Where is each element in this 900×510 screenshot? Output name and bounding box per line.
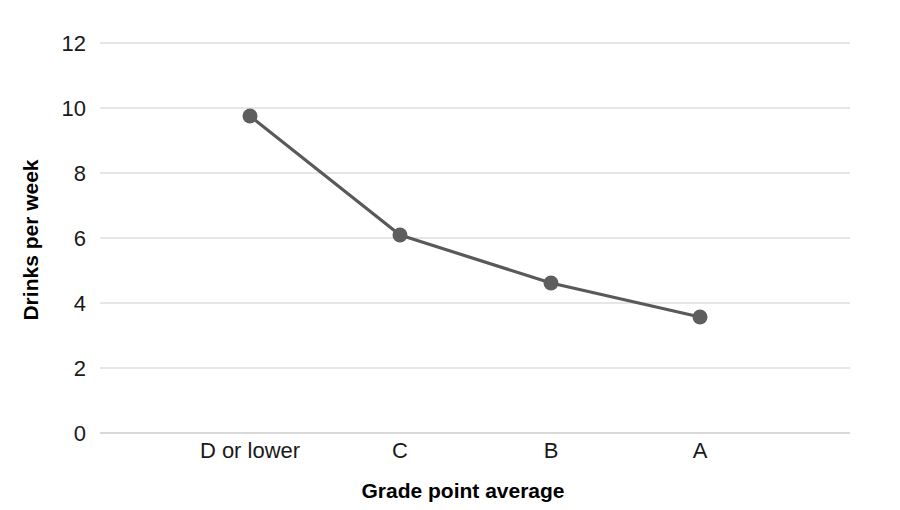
plot-area-background — [100, 30, 850, 433]
line-chart: 12 10 8 6 4 2 0 D or lower C B A Grade p… — [0, 0, 900, 510]
y-tick-labels: 12 10 8 6 4 2 0 — [62, 31, 86, 446]
y-tick-label: 8 — [74, 161, 86, 186]
y-tick-label: 12 — [62, 31, 86, 56]
x-tick-labels: D or lower C B A — [200, 438, 708, 463]
y-tick-label: 0 — [74, 421, 86, 446]
x-tick-label: D or lower — [200, 438, 300, 463]
y-tick-label: 2 — [74, 356, 86, 381]
y-axis-title: Drinks per week — [19, 159, 42, 320]
x-tick-label: B — [544, 438, 559, 463]
data-point-a — [693, 310, 708, 325]
chart-page: 12 10 8 6 4 2 0 D or lower C B A Grade p… — [0, 0, 900, 510]
y-tick-label: 4 — [74, 291, 86, 316]
y-tick-label: 10 — [62, 96, 86, 121]
data-point-c — [393, 228, 408, 243]
x-tick-label: C — [392, 438, 408, 463]
data-point-b — [544, 276, 559, 291]
x-tick-label: A — [693, 438, 708, 463]
x-axis-title: Grade point average — [361, 479, 564, 502]
y-tick-label: 6 — [74, 226, 86, 251]
data-point-d-or-lower — [243, 109, 258, 124]
